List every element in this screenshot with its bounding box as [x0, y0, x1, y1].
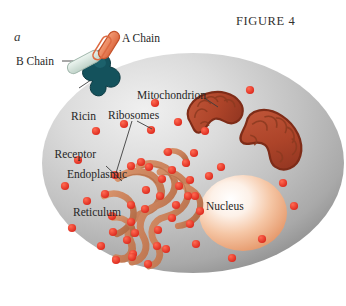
label-mitochondrion: Mitochondrion	[137, 89, 206, 102]
label-ribosomes: Ribosomes	[108, 109, 159, 122]
label-er-line2: Reticulum	[58, 206, 136, 219]
panel-letter: a	[14, 30, 21, 45]
label-endoplasmic-reticulum: Endoplasmic Reticulum	[58, 142, 136, 245]
label-a-chain: A Chain	[122, 32, 160, 45]
nucleus-shape	[199, 175, 287, 251]
label-b-chain: B Chain	[16, 55, 54, 68]
label-ricin-receptor-line1: Ricin	[12, 110, 96, 123]
figure-title: FIGURE 4	[236, 14, 295, 28]
figure-root: FIGURE 4 a A Chain B Chain Ricin Recepto…	[0, 0, 346, 306]
label-er-line1: Endoplasmic	[58, 168, 136, 181]
label-nucleus: Nucleus	[206, 200, 244, 213]
